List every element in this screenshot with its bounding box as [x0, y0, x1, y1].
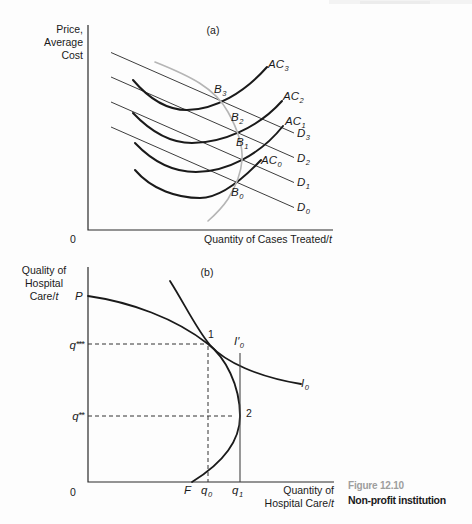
diagram-canvas [0, 0, 472, 524]
label-b3: B3 [214, 83, 226, 100]
label-q-triple-star: q*** [38, 338, 84, 351]
label-ac2: AC2 [283, 90, 304, 107]
panel-a-tag: (a) [201, 24, 225, 37]
y-axis-title-line: Average [0, 36, 83, 49]
demand-curve-d3 [111, 53, 294, 134]
y-axis-title-line: Cost [0, 49, 83, 62]
label-i0-prime: I′0 [234, 335, 244, 352]
average-cost-curve-ac3 [133, 67, 267, 110]
panel-b-x-axis-title: Quantity of Hospital Care/t [235, 484, 334, 510]
panel-b-y-axis-title: Quality of Hospital Care/t [8, 264, 80, 303]
label-i0: I0 [301, 377, 309, 394]
y-axis-title-line: Quality of [8, 264, 80, 277]
y-axis-title-line: Price, [0, 23, 83, 36]
y-axis-title-line: Hospital [8, 277, 80, 290]
panel-a-y-axis-title: Price, Average Cost [0, 23, 83, 61]
label-q0: q0 [201, 484, 212, 501]
label-d0: D0 [297, 201, 310, 218]
x-axis-title-text: Quantity of Cases Treated/ [204, 233, 329, 245]
panel-a-x-axis-title: Quantity of Cases Treated/t [202, 233, 334, 246]
label-q-double-star: q** [38, 409, 84, 422]
figure-12-10-nonprofit-institution: (a) Price, Average Cost 0 Quantity of Ca… [0, 0, 472, 524]
panel-a-origin-label: 0 [70, 233, 76, 246]
indifference-curve-i0 [170, 281, 301, 384]
label-d2: D2 [297, 152, 310, 169]
x-axis-title-line: Quantity of [235, 484, 334, 497]
label-p: P [75, 290, 83, 303]
label-point-2: 2 [246, 407, 252, 420]
label-b2: B2 [231, 111, 243, 128]
quality-quantity-frontier-curve [88, 296, 240, 482]
label-ac0: AC0 [261, 154, 282, 171]
label-d3: D3 [297, 127, 310, 144]
panel-b-axes [88, 267, 334, 482]
panel-b-origin-label: 0 [70, 486, 76, 499]
label-f: F [184, 484, 191, 497]
x-axis-title-italic-t: t [329, 233, 332, 245]
y-axis-title-line: Care/t [8, 290, 80, 303]
label-d1: D1 [297, 176, 310, 193]
figure-title: Non-profit institution [348, 494, 446, 507]
figure-number: Figure 12.10 [348, 480, 404, 493]
label-b0: B0 [231, 186, 243, 203]
label-b1: B1 [236, 136, 248, 153]
panel-b-tag: (b) [195, 266, 219, 279]
x-axis-title-line: Hospital Care/t [235, 497, 334, 510]
label-point-1: 1 [208, 328, 214, 341]
label-ac3: AC3 [268, 58, 289, 75]
